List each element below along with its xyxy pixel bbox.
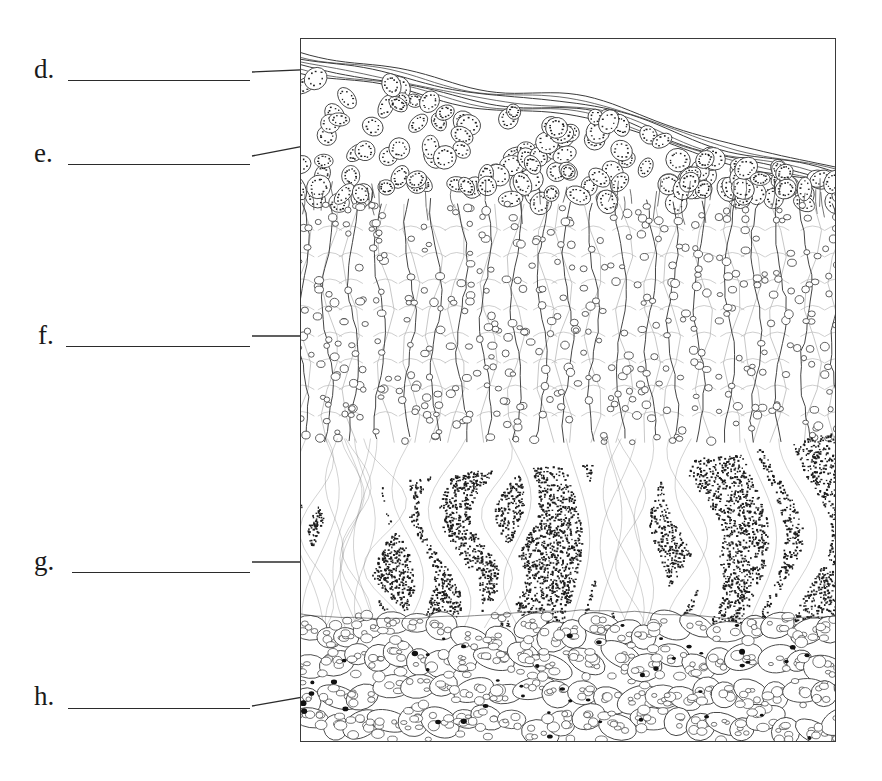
answer-row-g[interactable]: g. — [34, 548, 54, 575]
stipple-dot — [802, 528, 804, 530]
stipple-dot — [421, 533, 423, 534]
stipple-dot — [801, 457, 803, 458]
chloroplast-granule — [516, 169, 517, 171]
stipple-dot — [690, 470, 692, 472]
stipple-dot — [742, 494, 744, 495]
chloroplast — [728, 383, 735, 388]
answer-blank-f[interactable] — [66, 345, 250, 347]
stipple-dot — [467, 562, 469, 564]
stipple-dot — [462, 552, 463, 554]
stipple-dot — [760, 504, 762, 505]
stipple-dot — [446, 611, 448, 612]
chloroplast-granule — [735, 204, 736, 206]
chloroplast-granule — [522, 152, 523, 153]
stipple-dot — [726, 523, 728, 524]
stipple-dot — [469, 505, 471, 507]
stipple-dot — [659, 551, 660, 553]
stipple-dot — [441, 579, 443, 580]
stipple-dot — [477, 484, 479, 485]
stipple-dot — [452, 539, 453, 541]
stipple-dot — [704, 480, 706, 482]
stipple-dot — [411, 580, 413, 582]
chloroplast — [529, 263, 536, 268]
answer-row-e[interactable]: e. — [34, 140, 53, 167]
stipple-dot — [740, 498, 741, 500]
chloroplast-granule — [590, 131, 592, 132]
stipple-dot — [559, 471, 561, 472]
chloroplast-granule — [321, 72, 323, 73]
chloroplast-granule — [341, 115, 343, 116]
chloroplast-granule — [698, 190, 700, 191]
answer-blank-d[interactable] — [68, 79, 250, 81]
answer-blank-e[interactable] — [68, 163, 250, 165]
stipple-dot — [569, 529, 571, 531]
stipple-dot — [770, 603, 771, 605]
stipple-dot — [487, 578, 489, 579]
stipple-dot — [552, 498, 553, 500]
chloroplast — [742, 207, 749, 213]
stipple-dot — [490, 473, 492, 475]
stipple-dot — [673, 552, 675, 553]
stipple-dot — [673, 550, 675, 552]
chloroplast-granule — [761, 189, 762, 191]
cell-vesicle — [746, 688, 751, 692]
chloroplast — [301, 307, 308, 313]
stipple-dot — [701, 485, 703, 487]
stipple-dot — [660, 483, 662, 484]
chloroplast-granule — [396, 98, 398, 100]
stipple-dot — [717, 475, 719, 476]
small-cell — [468, 717, 477, 725]
stipple-dot — [407, 555, 409, 557]
stipple-dot — [416, 526, 418, 528]
answer-row-h[interactable]: h. — [34, 683, 54, 710]
stipple-dot — [500, 515, 502, 517]
stipple-dot — [323, 518, 325, 519]
stipple-dot — [451, 503, 453, 504]
stipple-dot — [810, 481, 812, 482]
cell-vesicle — [436, 681, 446, 687]
small-cell — [493, 658, 501, 664]
stipple-dot — [733, 510, 735, 512]
stipple-dot — [761, 538, 763, 539]
stipple-dot — [807, 591, 809, 593]
answer-blank-g[interactable] — [72, 571, 250, 573]
chloroplast-granule — [310, 83, 311, 85]
stipple-dot — [719, 556, 720, 558]
stipple-dot — [442, 606, 444, 607]
chloroplast — [504, 201, 510, 207]
stipple-dot — [556, 506, 558, 508]
chloroplast-granule — [510, 124, 512, 125]
stipple-dot — [573, 549, 575, 551]
stipple-dot — [709, 490, 711, 492]
stipple-dot — [415, 487, 416, 489]
stipple-dot — [474, 557, 476, 559]
stipple-dot — [482, 610, 484, 612]
chloroplast-granule — [410, 102, 411, 103]
chloroplast — [715, 318, 723, 324]
stipple-dot — [469, 554, 471, 556]
stipple-dot — [314, 525, 316, 527]
answer-row-d[interactable]: d. — [34, 56, 54, 83]
stipple-dot — [556, 539, 557, 541]
stipple-dot — [550, 547, 552, 548]
nucleus-speck — [739, 649, 745, 655]
stipple-dot — [660, 515, 661, 517]
stipple-dot — [786, 507, 788, 508]
stipple-dot — [552, 553, 554, 555]
stipple-dot — [834, 561, 835, 563]
stipple-dot — [408, 569, 409, 570]
answer-blank-h[interactable] — [68, 707, 250, 709]
stipple-dot — [781, 566, 783, 568]
chloroplast — [742, 216, 749, 223]
stipple-dot — [826, 579, 828, 581]
stipple-dot — [575, 506, 576, 508]
answer-row-f[interactable]: f. — [38, 322, 54, 349]
cell-vesicle — [424, 679, 430, 683]
stipple-dot — [389, 553, 391, 554]
chloroplast-granule — [642, 163, 643, 164]
stipple-dot — [815, 488, 817, 489]
chloroplast-granule — [694, 180, 696, 181]
chloroplast — [378, 289, 384, 294]
stipple-dot — [741, 579, 742, 581]
stipple-dot — [391, 593, 393, 595]
